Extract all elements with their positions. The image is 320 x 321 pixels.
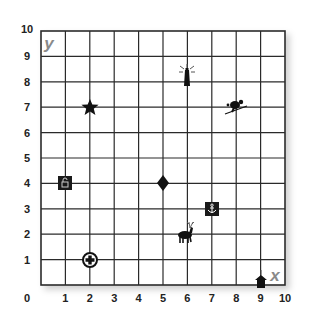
x-tick-label: 3 — [111, 292, 117, 304]
y-tick-label: 10 — [21, 23, 33, 35]
y-axis-letter: y — [44, 34, 53, 54]
x-tick-label: 9 — [258, 292, 264, 304]
lighthouse-icon — [177, 63, 197, 87]
y-tick-label: 4 — [24, 177, 30, 189]
anchor-icon — [205, 202, 219, 216]
diamond-icon — [157, 175, 169, 191]
padlock-icon — [58, 176, 72, 190]
x-tick-label: 6 — [184, 292, 190, 304]
house-icon — [255, 270, 267, 288]
x-axis-letter: x — [270, 266, 279, 286]
x-tick-label: 0 — [24, 292, 30, 304]
y-tick-label: 6 — [24, 127, 30, 139]
y-tick-label: 1 — [24, 254, 30, 266]
y-tick-label: 2 — [24, 228, 30, 240]
y-tick-label: 7 — [24, 101, 30, 113]
x-tick-label: 8 — [233, 292, 239, 304]
x-tick-label: 7 — [209, 292, 215, 304]
star-icon — [81, 98, 99, 116]
skier-icon — [223, 98, 249, 116]
x-tick-label: 2 — [87, 292, 93, 304]
y-tick-label: 9 — [24, 50, 30, 62]
y-tick-label: 8 — [24, 76, 30, 88]
x-tick-label: 1 — [62, 292, 68, 304]
deer-icon — [176, 220, 198, 244]
first-aid-cross-icon — [82, 252, 98, 268]
x-tick-label: 4 — [136, 292, 142, 304]
x-tick-label: 5 — [160, 292, 166, 304]
y-tick-label: 5 — [24, 152, 30, 164]
x-tick-label: 10 — [279, 292, 291, 304]
y-tick-label: 3 — [24, 203, 30, 215]
